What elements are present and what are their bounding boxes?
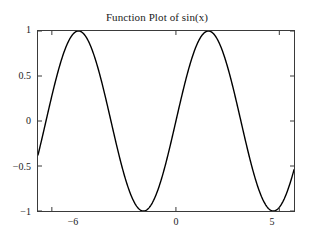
sin-curve-svg bbox=[38, 31, 294, 211]
sin-curve-line bbox=[38, 31, 294, 211]
y-tick-label-1: 1 bbox=[9, 25, 31, 35]
x-tick-label-5: 5 bbox=[270, 217, 275, 227]
plot-area bbox=[37, 30, 295, 212]
y-tick-label-0: 0 bbox=[9, 116, 31, 126]
y-tick-label-0.5: 0.5 bbox=[9, 71, 31, 81]
figure-canvas: Function Plot of sin(x) 1 0.5 0 −0.5 −1 … bbox=[0, 0, 314, 241]
chart-title: Function Plot of sin(x) bbox=[0, 11, 314, 23]
y-tick-label-neg1: −1 bbox=[9, 207, 31, 217]
y-tick-label-neg0.5: −0.5 bbox=[9, 162, 31, 172]
x-tick-label-0: 0 bbox=[174, 217, 179, 227]
axis-tick-marks bbox=[38, 31, 294, 211]
x-tick-label-neg6: −6 bbox=[68, 217, 79, 227]
